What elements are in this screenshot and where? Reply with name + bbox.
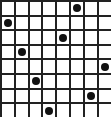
board-cell[interactable] (71, 31, 83, 44)
queen-dot-icon[interactable] (87, 92, 95, 100)
board-cell[interactable] (30, 104, 42, 117)
board-cell[interactable] (85, 104, 97, 117)
board-cell[interactable] (2, 31, 14, 44)
queen-dot-icon[interactable] (101, 63, 109, 71)
board-cell[interactable] (57, 17, 69, 30)
board-cell[interactable] (85, 31, 97, 44)
queen-dot-icon[interactable] (59, 34, 67, 42)
queen-dot-icon[interactable] (32, 77, 40, 85)
board-cell[interactable] (71, 17, 83, 30)
board-cell[interactable] (43, 60, 55, 73)
board-cell[interactable] (57, 2, 69, 15)
board-cell[interactable] (85, 17, 97, 30)
board-cell[interactable] (99, 104, 111, 117)
board-cell[interactable] (57, 75, 69, 88)
board-cell[interactable] (30, 46, 42, 59)
board-cell[interactable] (2, 46, 14, 59)
board-cell[interactable] (30, 31, 42, 44)
board-cell[interactable] (16, 2, 28, 15)
board-cell[interactable] (43, 2, 55, 15)
board-cell[interactable] (2, 2, 14, 15)
board-cell[interactable] (2, 60, 14, 73)
board-cell[interactable] (43, 90, 55, 103)
board-cell[interactable] (57, 90, 69, 103)
board-cell[interactable] (2, 75, 14, 88)
board-cell[interactable] (16, 60, 28, 73)
board-cell[interactable] (57, 60, 69, 73)
board-cell[interactable] (99, 75, 111, 88)
board-cell[interactable] (16, 75, 28, 88)
board-cell[interactable] (16, 104, 28, 117)
board-cell[interactable] (99, 17, 111, 30)
board-cell[interactable] (85, 2, 97, 15)
board-cell[interactable] (85, 75, 97, 88)
board-cell[interactable] (71, 60, 83, 73)
board-cell[interactable] (85, 60, 97, 73)
board-cell[interactable] (57, 46, 69, 59)
board-cell[interactable] (57, 104, 69, 117)
board-cell[interactable] (71, 75, 83, 88)
board-cell[interactable] (2, 104, 14, 117)
board-cell[interactable] (99, 2, 111, 15)
board-cell[interactable] (43, 46, 55, 59)
board-cell[interactable] (43, 17, 55, 30)
board-cell[interactable] (30, 17, 42, 30)
board-cell[interactable] (99, 46, 111, 59)
board-cell[interactable] (85, 46, 97, 59)
board-cell[interactable] (71, 90, 83, 103)
board-cell[interactable] (2, 90, 14, 103)
board-cell[interactable] (30, 2, 42, 15)
board-cell[interactable] (16, 90, 28, 103)
board-cell[interactable] (43, 75, 55, 88)
board-cell[interactable] (43, 31, 55, 44)
board-cell[interactable] (16, 17, 28, 30)
board-cell[interactable] (16, 31, 28, 44)
queen-dot-icon[interactable] (18, 48, 26, 56)
chess-board-grid (0, 0, 111, 117)
queen-dot-icon[interactable] (4, 19, 12, 27)
queen-dot-icon[interactable] (45, 107, 53, 115)
board-cell[interactable] (99, 31, 111, 44)
board-cell[interactable] (30, 60, 42, 73)
queen-dot-icon[interactable] (73, 4, 81, 12)
board-cell[interactable] (71, 46, 83, 59)
board-cell[interactable] (99, 90, 111, 103)
board-cell[interactable] (30, 90, 42, 103)
board-cell[interactable] (71, 104, 83, 117)
